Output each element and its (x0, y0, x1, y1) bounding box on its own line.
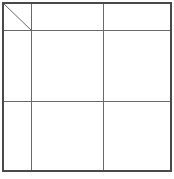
column-divider-1 (31, 4, 32, 170)
row-divider-1 (4, 30, 170, 31)
column-divider-2 (103, 4, 104, 170)
corner-diagonal-line (4, 4, 32, 31)
row-divider-2 (4, 101, 170, 102)
blank-table (2, 2, 172, 172)
